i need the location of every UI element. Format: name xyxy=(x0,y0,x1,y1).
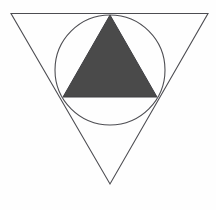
figure-canvas: Geometric composition: inverted triangle… xyxy=(0,0,216,210)
geometric-figure-svg: Geometric composition: inverted triangle… xyxy=(0,0,216,210)
